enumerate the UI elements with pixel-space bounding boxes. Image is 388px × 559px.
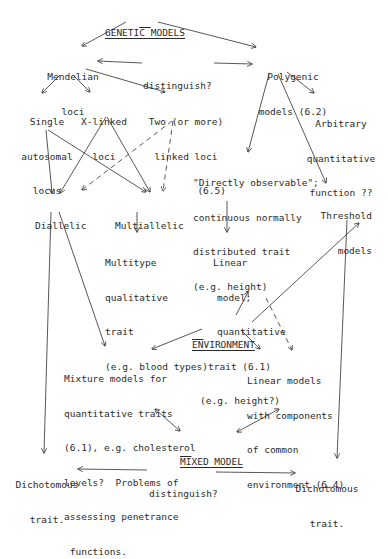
node-label: locus [12,185,82,197]
node-label: Two (or more) [140,116,232,128]
node-label: (6.1), e.g. cholesterol [64,442,196,454]
node-label: loci [72,151,136,163]
node-distinguish-bottom: distinguish? [149,465,218,511]
node-label: Mendelian [40,71,106,83]
node-label: Linear models [247,375,344,387]
node-label: models [312,245,382,257]
node-label: ENVIRONMENT [192,339,255,351]
node-dichotomous-trait-left: Dichotomous trait. [14,456,80,537]
node-label: with components [247,410,344,422]
node-label: Linear [200,257,296,269]
node-environment: ENVIRONMENT [192,316,255,362]
node-label: distinguish? [149,488,218,500]
node-label: GENETIC MODELS [100,27,190,39]
node-label: Multiallelic [115,220,184,232]
node-label: trait. [294,518,360,530]
node-label: Multitype [105,257,208,269]
node-label: Threshold [312,210,382,222]
node-label: quantitative traits [64,408,196,420]
node-x-linked-loci: X-linked loci [72,93,136,174]
node-label: distinguish? [143,80,212,92]
node-label: Arbitrary [300,118,382,130]
node-label: qualitative [105,292,208,304]
node-genetic-models: GENETIC MODELS [100,4,190,50]
node-diallelic: Diallelic [35,197,86,243]
node-mixture-models: Mixture models for quantitative traits (… [64,350,196,559]
node-label: Dichotomous [14,479,80,491]
node-dichotomous-trait-right: Dichotomous trait. [294,460,360,541]
node-label: trait. [14,514,80,526]
node-label: continuous normally [193,212,319,224]
node-label: "Directly observable"; [193,177,319,189]
node-label: assessing penetrance [64,511,196,523]
node-label: Diallelic [35,220,86,232]
node-label: Polygenic [248,71,338,83]
node-label: X-linked [72,116,136,128]
node-label: Mixture models for [64,373,196,385]
node-label: of common [247,444,344,456]
node-label: Dichotomous [294,483,360,495]
node-threshold-models: Threshold models [312,187,382,268]
node-label: model; [200,292,296,304]
node-label: functions. [64,546,196,558]
